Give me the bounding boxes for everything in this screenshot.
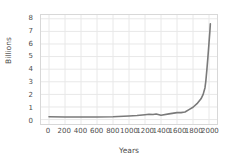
x-tick-label: 1800: [185, 128, 203, 135]
population-line-chart: Billions 012345678 020040060080010001200…: [0, 0, 242, 166]
population-series-line: [41, 15, 217, 124]
x-tick-label: 400: [74, 128, 87, 135]
y-tick-label: 2: [29, 91, 33, 98]
y-tick-label: 8: [29, 14, 33, 21]
y-tick-label: 1: [29, 104, 33, 111]
y-tick-label: 5: [29, 53, 33, 60]
y-tick-label: 6: [29, 40, 33, 47]
x-axis-label: Years: [40, 146, 218, 155]
x-tick-label: 2000: [201, 128, 219, 135]
x-axis-tick-labels: 0200400600800100012001400160018002000: [40, 128, 218, 140]
y-tick-label: 0: [29, 117, 33, 124]
y-tick-label: 7: [29, 27, 33, 34]
y-axis-tick-labels: 012345678: [0, 14, 36, 125]
y-tick-label: 3: [29, 79, 33, 86]
x-tick-label: 200: [58, 128, 71, 135]
y-tick-label: 4: [29, 66, 33, 73]
x-tick-label: 1400: [152, 128, 170, 135]
x-tick-label: 1200: [136, 128, 154, 135]
x-tick-label: 1000: [120, 128, 138, 135]
x-tick-label: 1600: [169, 128, 187, 135]
plot-area: [40, 14, 218, 125]
x-tick-label: 800: [106, 128, 119, 135]
x-tick-label: 0: [46, 128, 50, 135]
x-tick-label: 600: [90, 128, 103, 135]
